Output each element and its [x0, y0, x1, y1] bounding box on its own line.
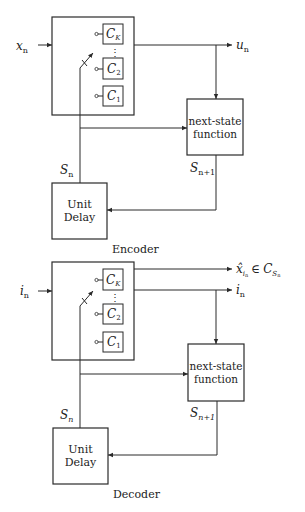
decoder-state-label: Sn	[60, 408, 73, 424]
terminal-icon	[95, 94, 98, 97]
terminal-icon	[95, 32, 98, 35]
decoder-output-xhat-label: x̂in∈CSn	[236, 262, 281, 278]
decoder-nsf-label-2: function	[194, 373, 238, 385]
encoder-title: Encoder	[112, 243, 159, 256]
encoder-nsf-label-2: function	[193, 128, 237, 140]
encoder-next-state-label: Sn+1	[190, 161, 215, 177]
encoder-input-label: xn	[16, 39, 28, 55]
decoder-feedback-arrow	[108, 401, 217, 455]
encoder-nsf-label-1: next-state	[189, 115, 242, 127]
terminal-icon	[95, 312, 98, 315]
encoder-next-state-function-block	[187, 99, 243, 155]
decoder-delay-label-1: Unit	[68, 443, 93, 456]
decoder-input-label: in	[20, 284, 29, 300]
terminal-icon	[95, 67, 98, 70]
encoder-feedback-arrow	[107, 155, 216, 210]
decoder-diagram: in CK ⋮ C2 C1 x̂in∈CSn	[20, 262, 281, 501]
encoder-delay-label-1: Unit	[67, 198, 92, 211]
trellis-coded-quantizer-diagram: xn CK ⋮ C2 C1	[0, 0, 305, 512]
encoder-diagram: xn CK ⋮ C2 C1	[16, 17, 249, 256]
terminal-icon	[95, 278, 98, 281]
vertical-ellipsis: ⋮	[110, 47, 120, 58]
decoder-next-state-label: Sn+1	[190, 406, 215, 422]
decoder-delay-label-2: Delay	[65, 456, 97, 469]
encoder-delay-label-2: Delay	[64, 211, 96, 224]
decoder-title: Decoder	[113, 488, 161, 501]
encoder-output-label: un	[236, 38, 249, 54]
terminal-icon	[95, 340, 98, 343]
decoder-nsf-label-1: next-state	[190, 360, 243, 372]
vertical-ellipsis: ⋮	[110, 292, 120, 303]
encoder-state-label: Sn	[60, 163, 73, 179]
decoder-output-index-label: in	[236, 283, 245, 299]
